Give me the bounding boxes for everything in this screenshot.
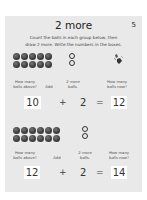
label-two-more: 2 moreballs. xyxy=(71,150,99,160)
ring-icon xyxy=(69,53,75,59)
ball-icon xyxy=(37,53,44,60)
ball-icon xyxy=(37,127,44,134)
ball-icon xyxy=(29,61,36,68)
ball-icon xyxy=(45,53,52,60)
ball-icon xyxy=(29,135,36,142)
ball-group-2 xyxy=(13,127,60,142)
ball-icon xyxy=(13,127,20,134)
ball-icon xyxy=(53,127,60,134)
answer-box-start-2[interactable]: 12 xyxy=(24,166,40,179)
answer-box-result-1[interactable]: 12 xyxy=(111,96,127,109)
instructions: Count the balls in each group below, the… xyxy=(15,35,132,48)
ball-icon xyxy=(13,61,20,68)
added-rings-2 xyxy=(82,126,88,139)
equals-sign-1: = xyxy=(96,96,104,109)
label-how-many-above: How manyballs above? xyxy=(11,150,39,160)
ball-icon xyxy=(45,135,52,142)
label-add: Add xyxy=(49,155,65,160)
ball-icon xyxy=(13,135,20,142)
ring-icon xyxy=(82,133,88,139)
ball-icon xyxy=(29,127,36,134)
add-amount-1: 2 xyxy=(80,96,86,109)
drawn-balls-scribble xyxy=(111,52,125,68)
ball-group-1 xyxy=(13,53,52,68)
ring-icon xyxy=(82,126,88,132)
ball-icon xyxy=(21,135,28,142)
ball-icon xyxy=(45,127,52,134)
ball-icon xyxy=(21,61,28,68)
page-number: 5 xyxy=(132,21,136,29)
plus-sign-1: + xyxy=(59,96,67,109)
ball-icon xyxy=(37,135,44,142)
label-how-many-now: How manyballs now? xyxy=(103,79,131,89)
worksheet-card: 2 more 5 Count the balls in each group b… xyxy=(5,16,142,192)
ball-icon xyxy=(37,61,44,68)
label-add: Add xyxy=(41,84,57,89)
ball-icon xyxy=(53,135,60,142)
page-title: 2 more xyxy=(5,19,142,31)
ball-icon xyxy=(13,53,20,60)
ring-icon xyxy=(69,60,75,66)
label-two-more: 2 moreballs. xyxy=(59,79,87,89)
answer-box-result-2[interactable]: 14 xyxy=(111,166,127,179)
answer-box-start-1[interactable]: 10 xyxy=(24,96,41,109)
ball-icon xyxy=(21,127,28,134)
added-rings-1 xyxy=(69,53,75,66)
label-how-many-above: How manyballs above? xyxy=(11,79,39,89)
plus-sign-2: + xyxy=(59,166,67,179)
equals-sign-2: = xyxy=(96,166,104,179)
ball-icon xyxy=(21,53,28,60)
ball-icon xyxy=(45,61,52,68)
ball-icon xyxy=(29,53,36,60)
add-amount-2: 2 xyxy=(80,166,86,179)
label-how-many-now: How manyballs now? xyxy=(105,150,133,160)
